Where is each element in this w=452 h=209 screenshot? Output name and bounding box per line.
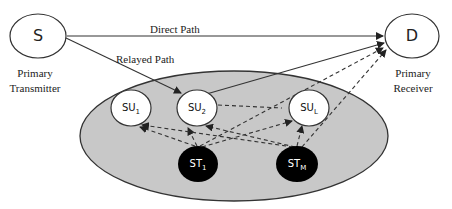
stM-label-sub: M [300, 164, 306, 172]
network-diagram [0, 0, 452, 209]
caption-line: Transmitter [0, 81, 70, 96]
destination-label: D [400, 25, 424, 47]
st1-label-main: ST [190, 158, 202, 169]
su2-label: SU2 [177, 100, 217, 120]
su1-label-main: SU [122, 102, 136, 113]
st1-label: ST1 [178, 156, 218, 176]
caption-line: Receiver [380, 81, 446, 96]
primary-transmitter-caption: Primary Transmitter [0, 66, 70, 96]
primary-receiver-caption: Primary Receiver [380, 66, 446, 96]
caption-line: Primary [380, 66, 446, 81]
stM-label-main: ST [288, 158, 300, 169]
suL-label-main: SU [300, 102, 314, 113]
su1-label: SU1 [111, 100, 151, 120]
stM-label: STM [277, 156, 317, 176]
su1-label-sub: 1 [136, 108, 140, 116]
source-label: S [26, 25, 50, 47]
suL-label: SUL [289, 100, 329, 120]
st1-label-sub: 1 [202, 164, 206, 172]
relayed-path-label: Relayed Path [116, 52, 196, 67]
suL-label-sub: L [314, 108, 318, 116]
su2-label-main: SU [188, 102, 202, 113]
su2-label-sub: 2 [202, 108, 206, 116]
direct-path-label: Direct Path [150, 22, 222, 37]
caption-line: Primary [0, 66, 70, 81]
